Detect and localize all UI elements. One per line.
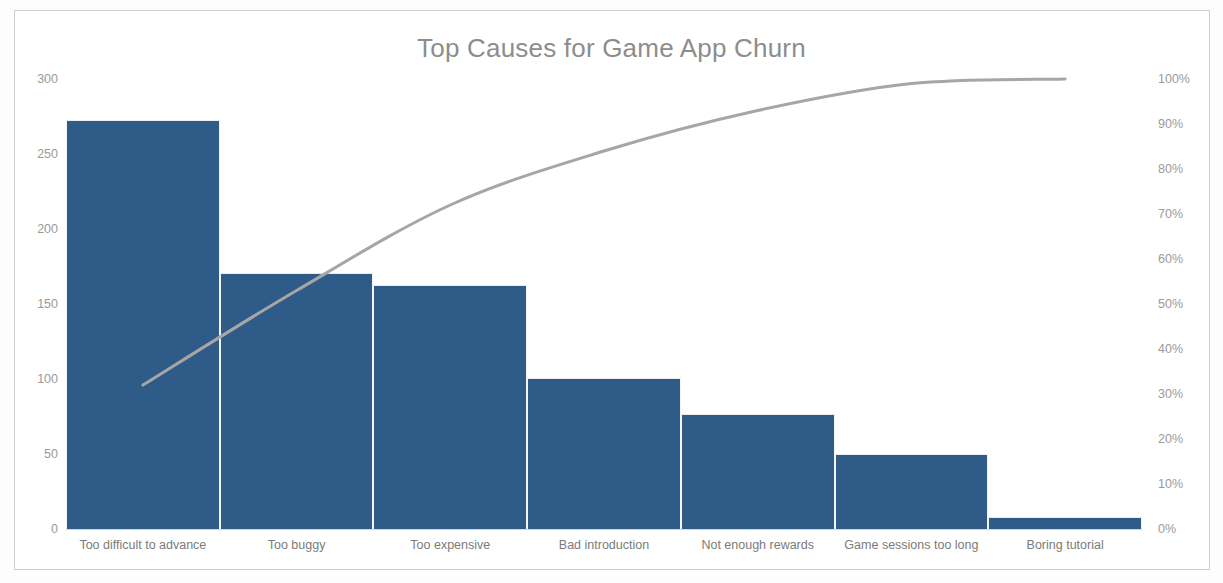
y-axis-right-tick-40: 40%	[1158, 342, 1183, 356]
x-axis-baseline	[66, 529, 1142, 530]
x-axis-category-label-3: Bad introduction	[559, 538, 649, 552]
x-axis-category-label-0: Too difficult to advance	[79, 538, 206, 552]
y-axis-left-tick-200: 200	[37, 222, 58, 236]
y-axis-right-tick-70: 70%	[1158, 207, 1183, 221]
y-axis-right-tick-80: 80%	[1158, 162, 1183, 176]
y-axis-right-tick-50: 50%	[1158, 297, 1183, 311]
x-axis: Too difficult to advanceToo buggyToo exp…	[66, 532, 1142, 562]
y-axis-left-tick-100: 100	[37, 372, 58, 386]
y-axis-left-tick-0: 0	[51, 522, 58, 536]
x-axis-category-label-6: Boring tutorial	[1027, 538, 1104, 552]
cumulative-percentage-line	[66, 79, 1142, 529]
y-axis-right-tick-100: 100%	[1158, 72, 1190, 86]
y-axis-right-tick-10: 10%	[1158, 477, 1183, 491]
y-axis-left: 050100150200250300	[20, 79, 58, 529]
x-axis-category-label-5: Game sessions too long	[844, 538, 978, 552]
chart-container: Top Causes for Game App Churn 0501001502…	[0, 0, 1223, 583]
y-axis-left-tick-250: 250	[37, 147, 58, 161]
y-axis-right-tick-90: 90%	[1158, 117, 1183, 131]
y-axis-left-tick-150: 150	[37, 297, 58, 311]
x-axis-category-label-4: Not enough rewards	[701, 538, 814, 552]
y-axis-left-tick-300: 300	[37, 72, 58, 86]
x-axis-category-label-1: Too buggy	[268, 538, 326, 552]
x-axis-category-label-2: Too expensive	[410, 538, 490, 552]
pareto-line-path	[143, 79, 1065, 385]
chart-title: Top Causes for Game App Churn	[0, 33, 1223, 64]
y-axis-right-tick-60: 60%	[1158, 252, 1183, 266]
y-axis-right: 0%10%20%30%40%50%60%70%80%90%100%	[1158, 79, 1208, 529]
plot-area	[66, 79, 1142, 529]
y-axis-right-tick-30: 30%	[1158, 387, 1183, 401]
y-axis-left-tick-50: 50	[44, 447, 58, 461]
y-axis-right-tick-20: 20%	[1158, 432, 1183, 446]
y-axis-right-tick-0: 0%	[1158, 522, 1176, 536]
